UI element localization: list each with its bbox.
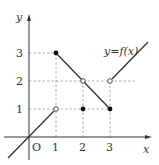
function-label: y=f(x) [103, 45, 138, 58]
y-tick-1: 1 [16, 103, 23, 116]
x-axis-arrow-icon [145, 135, 152, 139]
y-tick-2: 2 [16, 75, 23, 88]
function-graph: y x O 1 2 3 1 2 3 y=f(x) [0, 0, 159, 165]
filled-point [108, 107, 113, 112]
axes [4, 18, 148, 160]
y-tick-3: 3 [16, 47, 23, 60]
open-point [108, 79, 113, 84]
open-point [54, 107, 59, 112]
open-point [81, 79, 86, 84]
y-axis-arrow-icon [27, 14, 31, 21]
x-tick-1: 1 [52, 141, 59, 154]
guide-lines [29, 53, 137, 137]
y-axis-label: y [15, 11, 23, 24]
filled-point [81, 107, 86, 112]
origin-label: O [32, 141, 41, 154]
filled-point [54, 51, 59, 56]
x-tick-3: 3 [106, 141, 113, 154]
x-axis-label: x [143, 143, 150, 156]
x-tick-2: 2 [79, 141, 86, 154]
